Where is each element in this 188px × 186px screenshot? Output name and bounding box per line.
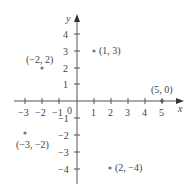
point-label: (1, 3) xyxy=(99,45,121,57)
point-neg2-2: (−2, 2) xyxy=(26,54,53,70)
point-2-neg4: (2, −4) xyxy=(108,162,142,174)
point-1-3: (1, 3) xyxy=(92,45,120,57)
x-tick-label: 4 xyxy=(142,107,147,118)
y-tick-label: −1 xyxy=(58,113,69,124)
y-tick-label: −4 xyxy=(58,164,69,175)
y-tick-label: −3 xyxy=(58,147,69,158)
point-dot-icon xyxy=(23,131,26,134)
x-tick-label: 3 xyxy=(125,107,130,118)
x-axis-label: x xyxy=(177,103,183,114)
point-label: (5, 0) xyxy=(151,84,173,96)
point-dot-icon xyxy=(40,66,43,69)
y-tick-label: 2 xyxy=(63,63,68,74)
x-tick-label: −2 xyxy=(35,107,46,118)
y-axis-arrow-icon xyxy=(74,14,80,22)
point-dot-icon xyxy=(92,49,95,52)
y-tick-label: 4 xyxy=(63,29,68,40)
y-tick-label: −2 xyxy=(58,130,69,141)
point-5-0: (5, 0) xyxy=(151,84,173,103)
y-tick-label: 3 xyxy=(63,46,68,57)
point-label: (−3, −2) xyxy=(16,139,49,151)
x-tick-label: 1 xyxy=(91,107,96,118)
x-tick-label: 2 xyxy=(108,107,113,118)
x-tick-label: −3 xyxy=(18,107,29,118)
x-tick-label: 5 xyxy=(159,107,164,118)
coordinate-plane: x y 0 −3 −2 −1 1 2 3 4 5 4 3 2 xyxy=(0,0,188,186)
point-neg3-neg2: (−3, −2) xyxy=(16,131,49,151)
point-dot-icon xyxy=(160,99,164,103)
y-axis-label: y xyxy=(65,13,71,24)
point-label: (2, −4) xyxy=(115,162,142,174)
y-tick-label: 1 xyxy=(63,79,68,90)
point-label: (−2, 2) xyxy=(26,54,53,66)
point-dot-icon xyxy=(108,166,111,169)
